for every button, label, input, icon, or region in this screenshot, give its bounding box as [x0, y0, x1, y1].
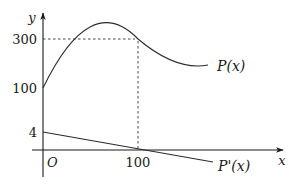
y-tick-label-300: 300	[12, 32, 37, 47]
guides	[43, 39, 138, 150]
series-p-prime-label: P'(x)	[217, 158, 250, 174]
y-axis-label: y	[27, 10, 36, 25]
x-tick-label-100: 100	[126, 155, 151, 170]
series-p-label: P(x)	[216, 58, 245, 74]
x-axis-label: x	[278, 153, 286, 168]
y-tick-label-100: 100	[12, 81, 37, 96]
origin-label: O	[47, 155, 58, 170]
x-tick-labels: 100	[126, 155, 151, 170]
y-tick-label-4: 4	[29, 125, 37, 140]
y-tick-labels: 300 100 4	[12, 32, 37, 140]
series-p-curve	[43, 23, 208, 88]
chart: 300 100 4 100 O y x P(x) P'(x)	[0, 0, 296, 185]
